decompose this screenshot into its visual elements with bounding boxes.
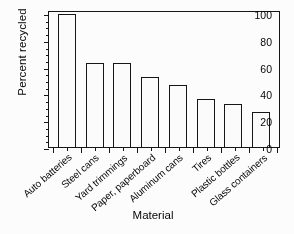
x-axis-category-label: Tires xyxy=(190,152,213,174)
y-axis-minor-tick xyxy=(46,35,49,36)
y-axis-minor-tick xyxy=(46,89,49,90)
y-axis-tick-label: 20 xyxy=(260,116,272,128)
bar-series xyxy=(49,12,279,147)
bar[interactable] xyxy=(141,77,159,147)
y-axis-major-tick xyxy=(44,149,49,150)
x-axis-major-tick xyxy=(81,147,82,153)
y-axis-minor-tick xyxy=(46,136,49,137)
x-axis-category-label: Yard trimmings xyxy=(73,152,129,203)
bar-slot xyxy=(220,12,248,147)
x-axis-major-tick xyxy=(137,147,138,153)
x-axis-category-label: Steel cans xyxy=(59,152,101,190)
y-axis-major-tick xyxy=(44,42,49,43)
x-axis-category-label: Plastic bottles xyxy=(189,152,242,200)
x-axis-major-tick xyxy=(109,147,110,153)
x-axis-minor-tick xyxy=(67,147,68,151)
y-axis-tick-label: 40 xyxy=(260,89,272,101)
bar[interactable] xyxy=(169,85,187,147)
y-axis-minor-tick xyxy=(46,49,49,50)
x-axis-minor-tick xyxy=(95,147,96,151)
x-axis-major-tick xyxy=(53,147,54,153)
y-axis-tick-label: 60 xyxy=(260,63,272,75)
x-axis-minor-tick xyxy=(151,147,152,151)
bar-slot xyxy=(192,12,220,147)
y-axis-minor-tick xyxy=(46,55,49,56)
x-axis-major-tick xyxy=(221,147,222,153)
y-axis-minor-tick xyxy=(46,22,49,23)
x-axis-category-label: Auto batteries xyxy=(21,152,74,200)
x-axis-category-label: Glass containers xyxy=(207,152,269,208)
bar-slot xyxy=(53,12,81,147)
x-axis-title: Material xyxy=(0,209,294,221)
y-axis-major-tick xyxy=(44,69,49,70)
x-axis-major-tick xyxy=(193,147,194,153)
x-axis-minor-tick xyxy=(179,147,180,151)
y-axis-minor-tick xyxy=(46,116,49,117)
bar[interactable] xyxy=(224,104,242,147)
bar-slot xyxy=(81,12,109,147)
x-axis-minor-tick xyxy=(123,147,124,151)
bar[interactable] xyxy=(58,14,76,147)
y-axis-minor-tick xyxy=(46,28,49,29)
x-axis-major-tick xyxy=(277,147,278,153)
x-axis-minor-tick xyxy=(207,147,208,151)
y-axis-minor-tick xyxy=(46,82,49,83)
x-axis-minor-tick xyxy=(263,147,264,151)
y-axis-tick-label: 100 xyxy=(254,9,272,21)
y-axis-minor-tick xyxy=(46,62,49,63)
y-axis-tick-label: 0 xyxy=(266,143,272,155)
bar-slot xyxy=(109,12,137,147)
y-axis-minor-tick xyxy=(46,109,49,110)
bar-slot xyxy=(136,12,164,147)
bar[interactable] xyxy=(113,63,131,147)
y-axis-major-tick xyxy=(44,95,49,96)
x-axis-category-label: Aluminum cans xyxy=(127,152,185,204)
y-axis-major-tick xyxy=(44,15,49,16)
bar-chart-figure: Percent recycled 020406080100 Auto batte… xyxy=(0,0,294,234)
x-axis-major-tick xyxy=(249,147,250,153)
y-axis-minor-tick xyxy=(46,75,49,76)
y-axis-major-tick xyxy=(44,122,49,123)
x-axis-major-tick xyxy=(165,147,166,153)
y-axis-tick-label: 80 xyxy=(260,36,272,48)
plot-area: 020406080100 xyxy=(48,11,280,148)
y-axis-minor-tick xyxy=(46,102,49,103)
x-axis-minor-tick xyxy=(235,147,236,151)
y-axis-minor-tick xyxy=(46,129,49,130)
y-axis-minor-tick xyxy=(46,142,49,143)
bar[interactable] xyxy=(86,63,104,147)
y-axis-title: Percent recycled xyxy=(16,0,28,112)
bar[interactable] xyxy=(197,99,215,147)
x-axis-category-label: Paper, paperboard xyxy=(89,152,157,214)
bar-slot xyxy=(164,12,192,147)
